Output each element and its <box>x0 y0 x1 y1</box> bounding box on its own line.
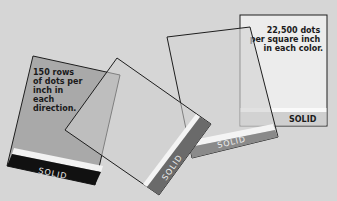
card-4-band-label: SOLID <box>289 115 317 124</box>
swatch-diagram: SOLID 150 rows of dots per inch in each … <box>0 0 337 201</box>
